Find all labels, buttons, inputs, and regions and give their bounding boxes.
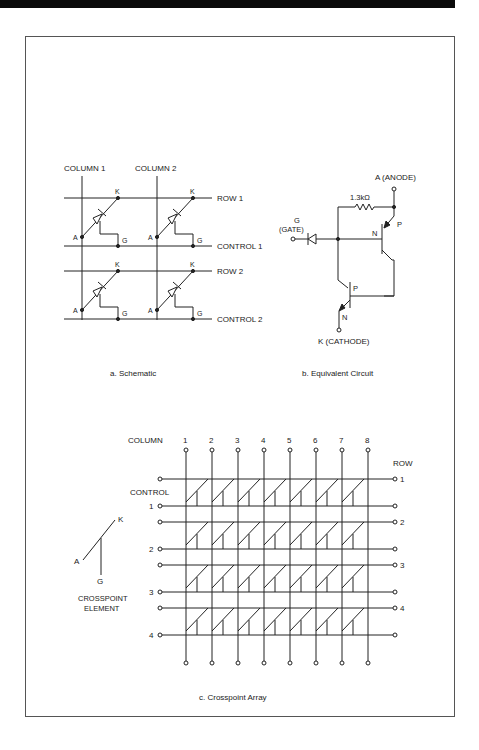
gate-label: G [294, 216, 300, 225]
row-1-label: ROW 1 [217, 194, 244, 203]
column-1-label: COLUMN 1 [64, 164, 106, 173]
k-label: K [115, 188, 120, 195]
equivalent-caption: b. Equivalent Circuit [302, 369, 374, 378]
g-label: G [197, 310, 202, 317]
figure-canvas: COLUMN 1 COLUMN 2 ROW 1 CONTROL 1 ROW 2 … [0, 0, 479, 750]
legend-a: A [74, 557, 80, 566]
p-label-lower: P [353, 284, 358, 293]
a-label: A [148, 307, 153, 314]
g-label: G [122, 237, 127, 244]
col-num-1: 1 [183, 436, 188, 445]
control-num-4: 4 [149, 631, 154, 640]
n-label-lower: N [342, 313, 347, 322]
row-num-3: 3 [400, 561, 405, 570]
a-label: A [148, 234, 153, 241]
row-num-4: 4 [400, 604, 405, 613]
col-num-2: 2 [209, 436, 214, 445]
row-label: ROW [393, 459, 413, 468]
legend-label-1: CROSSPOINT [78, 594, 128, 603]
legend-label-2: ELEMENT [84, 604, 120, 613]
scr-cell: K A G [148, 261, 202, 321]
control-num-3: 3 [149, 588, 154, 597]
k-label: K [115, 261, 120, 268]
array-caption: c. Crosspoint Array [199, 693, 267, 702]
g-label: G [122, 310, 127, 317]
gate-sub-label: (GATE) [279, 225, 304, 234]
row-num-2: 2 [400, 518, 405, 527]
k-label: K [190, 188, 195, 195]
a-label: A [73, 307, 78, 314]
column-2-label: COLUMN 2 [135, 164, 177, 173]
col-num-6: 6 [313, 436, 318, 445]
equivalent-circuit: A (ANODE) 1.3kΩ P N G (GATE) P N [279, 173, 416, 378]
crosspoint-elements [186, 479, 364, 635]
scr-cell: K A G [73, 261, 127, 321]
control-num-1: 1 [149, 502, 154, 511]
legend-g: G [97, 577, 103, 586]
crosspoint-array: COLUMN 1 2 3 4 5 6 7 8 ROW CONTROL [128, 436, 413, 702]
control-2-label: CONTROL 2 [217, 315, 263, 324]
control-1-label: CONTROL 1 [217, 242, 263, 251]
anode-label: A (ANODE) [375, 173, 416, 182]
col-num-4: 4 [261, 436, 266, 445]
schematic: COLUMN 1 COLUMN 2 ROW 1 CONTROL 1 ROW 2 … [64, 164, 263, 378]
row-num-1: 1 [400, 475, 405, 484]
schematic-caption: a. Schematic [110, 369, 156, 378]
row-lines [158, 477, 397, 637]
control-label: CONTROL [130, 488, 170, 497]
p-label-upper: P [397, 220, 402, 229]
scr-cell: K A G [148, 188, 202, 248]
cathode-label: K (CATHODE) [318, 337, 370, 346]
n-label-upper: N [372, 229, 377, 238]
col-num-7: 7 [339, 436, 344, 445]
col-num-3: 3 [235, 436, 240, 445]
a-label: A [73, 234, 78, 241]
scr-cell: K A G [73, 188, 127, 248]
col-num-5: 5 [287, 436, 292, 445]
control-num-2: 2 [149, 545, 154, 554]
col-num-8: 8 [365, 436, 370, 445]
resistor-label: 1.3kΩ [350, 193, 370, 202]
k-label: K [190, 261, 195, 268]
legend-k: K [118, 515, 124, 524]
crosspoint-element-legend: K A G CROSSPOINT ELEMENT [74, 515, 128, 613]
row-2-label: ROW 2 [217, 267, 244, 276]
column-label: COLUMN [128, 436, 163, 445]
g-label: G [197, 237, 202, 244]
column-lines [184, 448, 370, 665]
